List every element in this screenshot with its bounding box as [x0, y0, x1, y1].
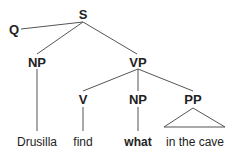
pp-triangle	[164, 108, 225, 127]
node-pp: PP	[184, 92, 201, 107]
leaf-drusilla: Drusilla	[17, 135, 57, 149]
edge-vp-pp	[138, 69, 193, 91]
node-np-object: NP	[129, 92, 147, 107]
edge-vp-v	[83, 69, 138, 91]
leaf-what: what	[124, 135, 151, 149]
leaf-find: find	[73, 135, 92, 149]
node-q: Q	[9, 22, 19, 37]
node-vp: VP	[129, 55, 146, 70]
edge-s-vp	[83, 22, 137, 54]
leaf-in-the-cave: in the cave	[166, 135, 224, 149]
node-s: S	[79, 7, 88, 22]
node-v: V	[79, 92, 88, 107]
node-np-subject: NP	[28, 55, 46, 70]
tree-edges	[0, 0, 236, 154]
